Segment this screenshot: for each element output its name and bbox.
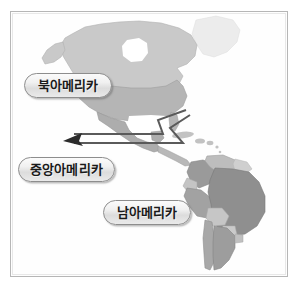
label-south-america: 남아메리카	[103, 200, 191, 225]
region-uruguay	[235, 234, 243, 243]
label-north-america: 북아메리카	[24, 73, 112, 98]
label-central-america: 중앙아메리카	[18, 157, 115, 182]
label-south-america-text: 남아메리카	[117, 206, 178, 219]
figure-container: 북아메리카 중앙아메리카 남아메리카	[0, 0, 300, 293]
americas-map	[11, 12, 287, 276]
map-graphic	[11, 12, 287, 276]
label-north-america-text: 북아메리카	[38, 79, 99, 92]
region-alaska	[42, 42, 65, 64]
region-caribbean	[172, 131, 222, 154]
region-central-america	[158, 146, 191, 166]
region-florida	[169, 112, 179, 131]
label-central-america-text: 중앙아메리카	[30, 163, 103, 176]
region-argentina	[213, 226, 235, 270]
region-greenland	[192, 16, 240, 57]
